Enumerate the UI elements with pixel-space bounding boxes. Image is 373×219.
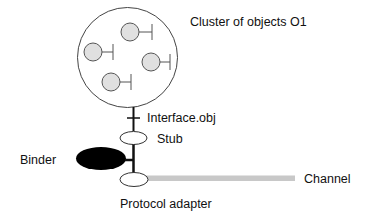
stub-label: Stub <box>157 132 183 146</box>
cluster-object <box>102 73 131 91</box>
stub-ellipse <box>120 132 147 145</box>
interface-label: Interface.obj <box>147 111 216 125</box>
cluster-label: Cluster of objects O1 <box>190 15 307 29</box>
channel-bar <box>146 176 295 182</box>
cluster-object <box>121 23 152 41</box>
protocol-adapter-ellipse <box>120 173 148 187</box>
binder-ellipse <box>76 147 126 170</box>
cluster-object <box>142 53 170 71</box>
protocol-adapter-label: Protocol adapter <box>120 197 212 211</box>
cluster-object <box>84 43 113 61</box>
diagram-canvas: Cluster of objects O1 Interface.obj Stub… <box>0 0 373 219</box>
binder-label: Binder <box>20 153 56 167</box>
channel-label: Channel <box>304 172 351 186</box>
